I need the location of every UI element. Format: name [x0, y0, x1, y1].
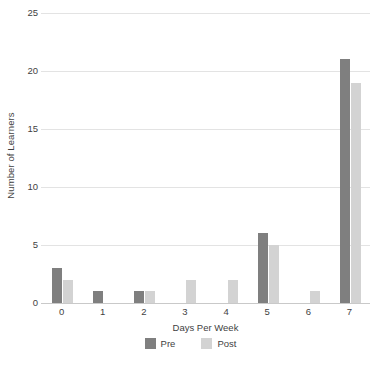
bar-pre-0: [52, 268, 62, 303]
y-axis-tick-label: 15: [12, 124, 38, 134]
legend-swatch-icon: [201, 338, 212, 349]
bar-chart: Number of Learners 0510152025 01234567 D…: [0, 0, 381, 372]
bar-group: [123, 13, 164, 303]
legend-swatch-icon: [145, 338, 156, 349]
x-axis-tick-labels: 01234567: [41, 306, 370, 322]
bar-pre-7: [340, 59, 350, 303]
bar-group: [329, 13, 370, 303]
plot-area: [41, 13, 370, 303]
bar-post-2: [145, 291, 155, 303]
bar-pre-1: [93, 291, 103, 303]
x-axis-tick-label: 1: [83, 306, 123, 317]
y-axis-tick-label: 20: [12, 66, 38, 76]
x-axis-tick-label: 3: [165, 306, 205, 317]
y-axis-tick-labels: 0510152025: [8, 13, 38, 303]
bar-group: [41, 13, 82, 303]
bar-post-0: [63, 280, 73, 303]
bar-group: [288, 13, 329, 303]
bar-group: [82, 13, 123, 303]
y-axis-tick-label: 25: [12, 8, 38, 18]
bar-pre-5: [258, 233, 268, 303]
x-axis-tick-label: 0: [42, 306, 82, 317]
bar-post-3: [186, 280, 196, 303]
bar-group: [206, 13, 247, 303]
bar-pre-2: [134, 291, 144, 303]
legend-label: Pre: [161, 339, 176, 349]
gridline: [41, 303, 370, 304]
x-axis-tick-label: 5: [247, 306, 287, 317]
bar-post-5: [269, 245, 279, 303]
x-axis-tick-label: 4: [206, 306, 246, 317]
bars-layer: [41, 13, 370, 303]
bar-group: [164, 13, 205, 303]
y-axis-tick-label: 5: [12, 240, 38, 250]
bar-post-4: [228, 280, 238, 303]
legend-item-post[interactable]: Post: [201, 338, 236, 349]
bar-post-7: [351, 83, 361, 303]
y-axis-tick-label: 0: [12, 298, 38, 308]
bar-group: [247, 13, 288, 303]
x-axis-title: Days Per Week: [41, 322, 370, 333]
x-axis-tick-label: 2: [124, 306, 164, 317]
legend-label: Post: [217, 339, 236, 349]
x-axis-tick-label: 6: [288, 306, 328, 317]
chart-legend: PrePost: [0, 338, 381, 349]
y-axis-tick-label: 10: [12, 182, 38, 192]
bar-post-6: [310, 291, 320, 303]
legend-item-pre[interactable]: Pre: [145, 338, 176, 349]
x-axis-tick-label: 7: [329, 306, 369, 317]
